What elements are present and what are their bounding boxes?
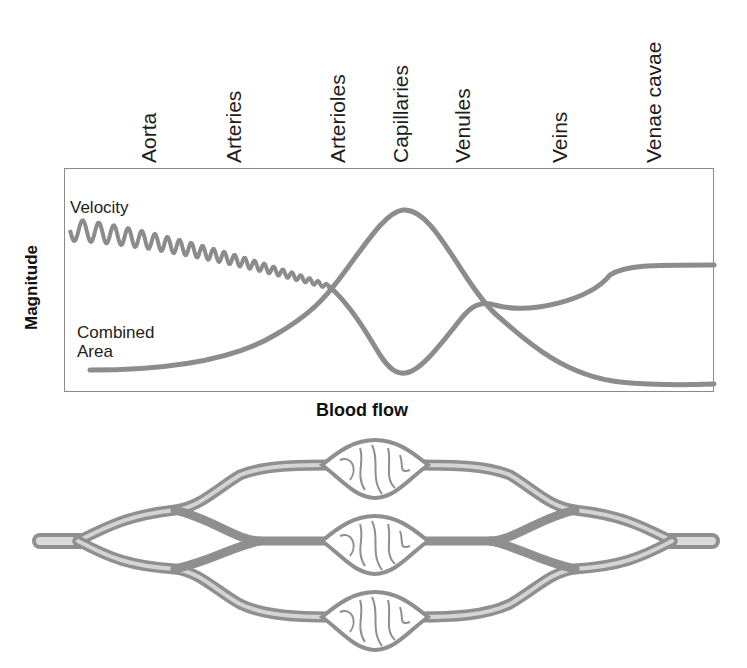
vessel-network-illustration xyxy=(0,0,747,668)
